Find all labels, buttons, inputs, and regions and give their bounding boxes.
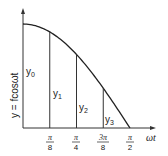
x-axis-arrow — [150, 126, 156, 130]
tick-pi-2: π 2 — [126, 133, 134, 152]
svg-text:π: π — [128, 133, 133, 142]
label-y3: y3 — [105, 114, 114, 126]
tick-pi-8: π 8 — [46, 133, 54, 152]
y-axis-arrow — [21, 8, 25, 14]
label-y2: y2 — [79, 102, 88, 114]
svg-text:π: π — [74, 133, 79, 142]
svg-text:8: 8 — [48, 143, 53, 152]
svg-text:3π: 3π — [98, 133, 108, 142]
label-y0: y0 — [26, 66, 35, 78]
svg-text:2: 2 — [128, 143, 133, 152]
x-axis-label: ωt — [146, 132, 156, 143]
svg-text:π: π — [48, 133, 53, 142]
svg-text:8: 8 — [101, 143, 106, 152]
y-axis-label: y = fcosωt — [9, 72, 20, 118]
svg-text:4: 4 — [74, 143, 79, 152]
cosine-diagram: y0 y1 y2 y3 y = fcosωt π 8 π 4 3π 8 π 2 … — [0, 0, 168, 156]
tick-3pi-8: 3π 8 — [97, 133, 109, 152]
tick-pi-4: π 4 — [72, 133, 80, 152]
label-y1: y1 — [53, 88, 62, 100]
